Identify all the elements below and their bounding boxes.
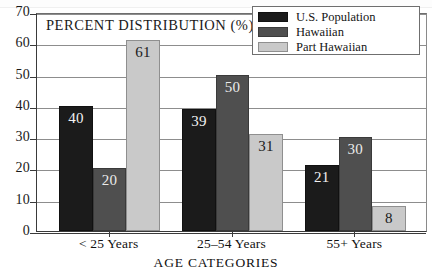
x-axis-category-label: 25–54 Years — [162, 236, 302, 252]
y-axis-tick — [30, 170, 37, 171]
x-axis-category-label: < 25 Years — [39, 236, 179, 252]
y-axis-tick — [30, 45, 37, 46]
y-axis-tick — [30, 202, 37, 203]
y-axis-tick — [30, 108, 37, 109]
bar: 39 — [182, 109, 216, 231]
bar-value-label: 61 — [127, 45, 159, 60]
y-axis-tick — [30, 77, 37, 78]
bar: 8 — [372, 206, 406, 231]
legend-label-part-hawaiian: Part Hawaiian — [296, 41, 367, 54]
legend-label-hawaiian: Hawaiian — [296, 26, 344, 39]
bar-value-label: 40 — [60, 111, 92, 126]
y-axis-tick-label: 10 — [4, 193, 30, 207]
bar: 40 — [59, 106, 93, 231]
bar-value-label: 20 — [94, 173, 126, 188]
y-axis-tick-label: 70 — [4, 5, 30, 19]
bar-value-label: 30 — [340, 142, 372, 157]
y-axis-tick-label: 50 — [4, 68, 30, 82]
bar-value-label: 8 — [373, 211, 405, 226]
y-axis-tick-label: 40 — [4, 99, 30, 113]
bar-value-label: 50 — [217, 80, 249, 95]
y-axis-tick — [30, 139, 37, 140]
y-axis-tick-label: 30 — [4, 130, 30, 144]
bar: 30 — [339, 137, 373, 231]
legend-item: Hawaiian — [258, 25, 415, 39]
legend-item: Part Hawaiian — [258, 40, 415, 54]
legend-label-us-population: U.S. Population — [296, 11, 376, 24]
x-axis-category-label: 55+ Years — [284, 236, 424, 252]
bar-value-label: 21 — [306, 170, 338, 185]
bar-value-label: 31 — [250, 139, 282, 154]
bar: 20 — [93, 168, 127, 231]
legend-swatch-us-population — [258, 12, 288, 22]
plot-title: PERCENT DISTRIBUTION (%) — [46, 17, 254, 34]
y-axis-tick-label: 0 — [4, 224, 30, 238]
y-axis-tick-label: 60 — [4, 36, 30, 50]
y-axis-tick — [30, 14, 37, 15]
y-axis-tick — [30, 233, 37, 234]
legend-item: U.S. Population — [258, 10, 415, 24]
y-axis-tick-label: 20 — [4, 161, 30, 175]
legend: U.S. Population Hawaiian Part Hawaiian — [252, 6, 420, 55]
bar: 61 — [126, 40, 160, 231]
bar: 31 — [249, 134, 283, 231]
legend-swatch-part-hawaiian — [258, 42, 288, 52]
bar: 21 — [305, 165, 339, 231]
x-axis-title: AGE CATEGORIES — [0, 255, 432, 271]
bar-chart: 010203040506070 40206139503121308 < 25 Y… — [0, 0, 432, 273]
bar-value-label: 39 — [183, 114, 215, 129]
legend-swatch-hawaiian — [258, 27, 288, 37]
bar: 50 — [216, 75, 250, 231]
